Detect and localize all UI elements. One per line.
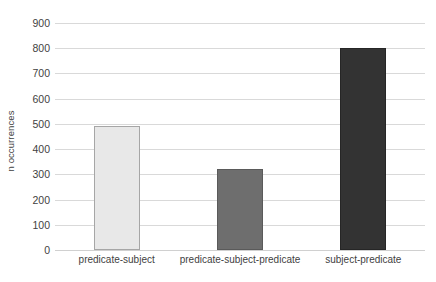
y-tick-label: 0 bbox=[6, 245, 50, 256]
y-tick-label: 500 bbox=[6, 119, 50, 130]
bar bbox=[94, 126, 140, 250]
bar bbox=[340, 48, 386, 250]
y-tick-label: 100 bbox=[6, 220, 50, 231]
gridline bbox=[55, 250, 425, 251]
x-axis-tick-labels: predicate-subjectpredicate-subject-predi… bbox=[55, 254, 425, 278]
x-tick-label: predicate-subject bbox=[79, 254, 155, 266]
bar bbox=[217, 169, 263, 250]
y-tick-label: 800 bbox=[6, 43, 50, 54]
y-tick-label: 300 bbox=[6, 169, 50, 180]
x-tick-label: subject-predicate bbox=[325, 254, 401, 266]
y-tick-label: 400 bbox=[6, 144, 50, 155]
y-tick-label: 600 bbox=[6, 93, 50, 104]
bars-layer bbox=[55, 23, 425, 250]
y-tick-label: 700 bbox=[6, 68, 50, 79]
y-tick-label: 200 bbox=[6, 194, 50, 205]
x-tick-label: predicate-subject-predicate bbox=[180, 254, 301, 266]
bar-chart: n occurrences 01002003004005006007008009… bbox=[0, 0, 436, 282]
y-tick-label: 900 bbox=[6, 18, 50, 29]
y-axis-tick-labels: 0100200300400500600700800900 bbox=[0, 23, 50, 250]
